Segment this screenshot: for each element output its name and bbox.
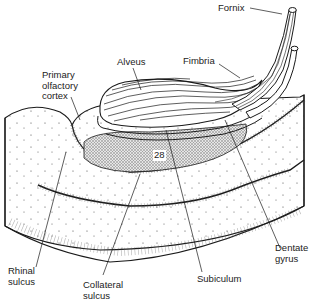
label-alveus: Alveus: [117, 57, 146, 68]
label-fornix: Fornix: [218, 3, 244, 14]
label-fimbria: Fimbria: [183, 56, 215, 67]
label-collateral-sulcus: Collateral sulcus: [83, 280, 123, 301]
label-subiculum: Subiculum: [197, 274, 241, 285]
label-rhinal-sulcus: Rhinal sulcus: [8, 266, 35, 287]
label-primary-olfactory-cortex: Primary olfactory cortex: [42, 70, 78, 102]
label-area-28: 28: [153, 150, 166, 161]
label-dentate-gyrus: Dentate gyrus: [275, 243, 308, 264]
